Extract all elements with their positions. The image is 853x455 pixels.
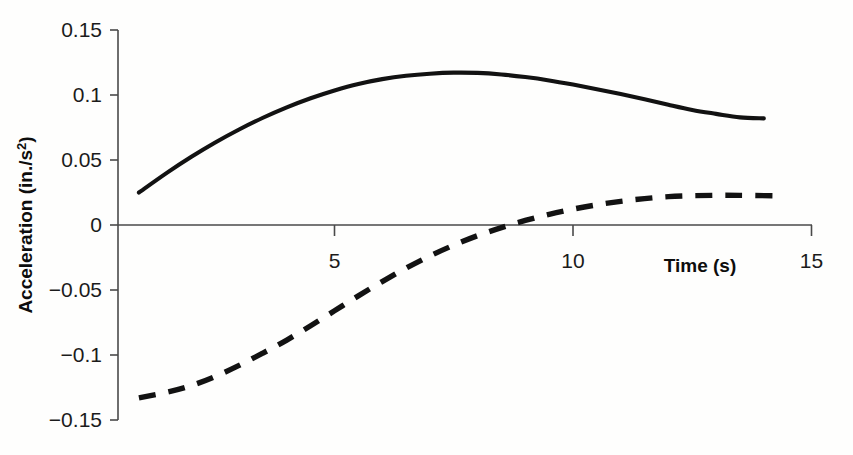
chart-figure: 0.150.10.050−0.05−0.1−0.15 51015 Time (s… xyxy=(0,0,853,455)
y-axis-title: Acceleration (in./s2) xyxy=(14,136,36,313)
y-tick-label: 0.1 xyxy=(73,83,102,106)
y-tick-label: 0.15 xyxy=(61,18,102,41)
acceleration-vs-time-plot: 0.150.10.050−0.05−0.1−0.15 51015 Time (s… xyxy=(0,0,853,455)
x-tick-label: 15 xyxy=(800,249,823,272)
plot-background xyxy=(0,0,853,455)
y-tick-label: 0 xyxy=(90,213,102,236)
x-axis-title: Time (s) xyxy=(664,255,737,276)
y-axis-title-group: Acceleration (in./s2) xyxy=(14,136,36,313)
x-tick-label: 5 xyxy=(329,249,341,272)
y-tick-label: 0.05 xyxy=(61,148,102,171)
y-tick-label: −0.05 xyxy=(49,278,102,301)
y-tick-label: −0.15 xyxy=(49,408,102,431)
x-tick-label: 10 xyxy=(561,249,584,272)
y-tick-label: −0.1 xyxy=(61,343,102,366)
